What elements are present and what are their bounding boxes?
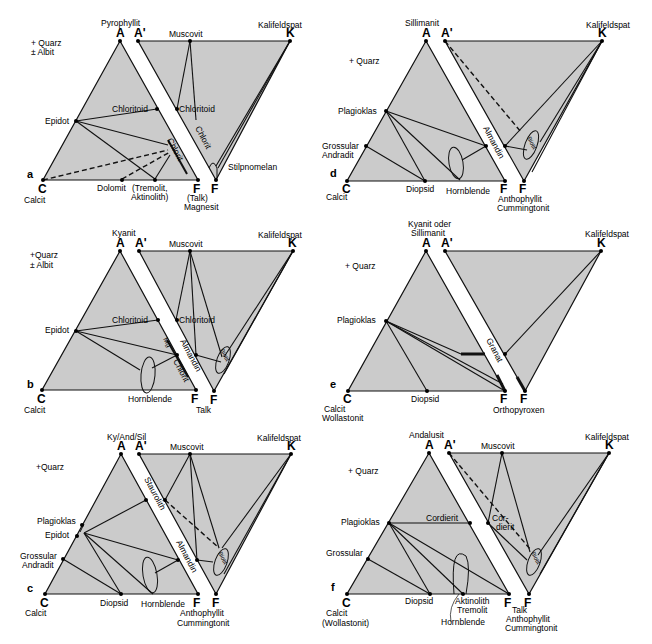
vertex-A: A: [422, 26, 431, 40]
assemblage-label: +Quarz: [30, 250, 58, 260]
assemblage-label: ± Albit: [30, 260, 54, 270]
vertex-mineral: Magnesit: [184, 202, 219, 212]
vertex-K: K: [288, 236, 297, 250]
phase-label: Plagioklas: [337, 315, 376, 325]
phase-label: Chloritoid: [112, 315, 148, 325]
panel-a: + Quarz ± Albit Pyrophyllit A A' Muscovi…: [24, 18, 303, 212]
phase-label: Andradit: [22, 560, 54, 570]
panel-e: + Quarz Kyanit oder Sillimanit A A' Kali…: [322, 219, 630, 423]
panel-c: +Quarz Ky/And/Sil A A' Muscovit Kalifeld…: [20, 432, 302, 628]
phase-label: Hornblende: [128, 394, 172, 404]
phase-label: Chloritoid: [179, 104, 215, 114]
phase-label: Diopsid: [411, 394, 440, 404]
phase-label: Plagioklas: [338, 106, 377, 116]
vertex-mineral: Wollastonit: [322, 413, 364, 423]
vertex-K: K: [598, 26, 607, 40]
vertex-K: K: [286, 26, 295, 40]
phase-label: Chloritoid: [179, 315, 215, 325]
phase-label: Stilpnomelan: [228, 162, 277, 172]
vertex-mineral: Kalifeldspat: [586, 20, 631, 30]
vertex-F: F: [191, 392, 198, 406]
phase-label: Diopsid: [100, 598, 129, 608]
panel-b: +Quarz ± Albit Kyanit A A' Muscovit Kali…: [24, 228, 303, 415]
assemblage-label: +Quarz: [36, 462, 64, 472]
vertex-A-prime: A': [441, 236, 453, 250]
vertex-F-prime: F: [211, 182, 218, 196]
vertex-mineral: Calcit: [326, 608, 348, 618]
vertex-F: F: [504, 596, 511, 610]
phase-label: Grossular: [326, 548, 363, 558]
phase-label: Plagioklas: [341, 517, 380, 527]
phase-label: Muscovit: [481, 441, 515, 451]
vertex-mineral: Kalifeldspat: [585, 229, 630, 239]
assemblage-label: + Quarz: [348, 466, 378, 476]
vertex-mineral: Cummingtonit: [177, 618, 230, 628]
vertex-K: K: [597, 236, 606, 250]
panel-f: + Quarz Andalusit A A' Muscovit Kalifeld…: [322, 430, 630, 633]
acf-akf-diagram-figure: + Quarz ± Albit Pyrophyllit A A' Muscovi…: [0, 0, 652, 644]
phase-label: Andradit: [322, 150, 354, 160]
vertex-A: A: [422, 236, 431, 250]
assemblage-label: + Quarz: [345, 261, 375, 271]
vertex-mineral: Talk: [196, 405, 212, 415]
vertex-mineral: Calcit: [326, 192, 348, 202]
phase-label: Diopsid: [405, 596, 434, 606]
vertex-mineral: Calcit: [24, 195, 46, 205]
vertex-K: K: [287, 439, 296, 453]
phase-label: Hornblende: [441, 617, 485, 627]
panel-letter: c: [27, 582, 33, 594]
assemblage-label: + Quarz: [349, 56, 379, 66]
vertex-mineral: Cummingtonit: [505, 623, 558, 633]
vertex-A: A: [425, 438, 434, 452]
panel-letter: a: [27, 168, 34, 180]
vertex-A: A: [117, 439, 126, 453]
vertex-mineral: Cummingtonit: [497, 203, 550, 213]
phase-label: Cordierit: [426, 513, 459, 523]
phase-label: Diopsid: [406, 184, 435, 194]
vertex-mineral: Calcit: [24, 405, 46, 415]
phase-label: Epidot: [45, 530, 70, 540]
phase-label: dierit: [496, 522, 515, 532]
phase-label: Muscovit: [169, 239, 203, 249]
vertex-F: F: [500, 392, 507, 406]
phase-label: Aktinolith): [131, 192, 168, 202]
vertex-A-prime: A': [134, 26, 146, 40]
phase-label: Hornblende: [446, 186, 490, 196]
phase-label: Dolomit: [97, 183, 126, 193]
panel-letter: f: [331, 581, 335, 593]
panel-letter: d: [330, 167, 337, 179]
panel-letter: b: [27, 378, 34, 390]
phase-label: Epidot: [45, 325, 70, 335]
phase-label: Hornblende: [141, 599, 185, 609]
vertex-F-prime: F: [520, 392, 527, 406]
vertex-mineral: Orthopyroxen: [493, 405, 545, 415]
vertex-A-prime: A': [441, 26, 453, 40]
vertex-A-prime: A': [444, 438, 456, 452]
vertex-C: C: [37, 392, 46, 406]
panel-d: + Quarz Sillimanit A A' Kalifeldspat K P…: [322, 18, 631, 213]
vertex-A: A: [116, 236, 125, 250]
phase-label: Chloritoid: [112, 104, 148, 114]
assemblage-a-2: ± Albit: [31, 47, 55, 57]
phase-label: Tremolit: [457, 605, 488, 615]
vertex-mineral: Calcit: [25, 608, 47, 618]
panel-letter: e: [330, 378, 336, 390]
vertex-A-prime: A': [135, 236, 147, 250]
phase-label: Epidot: [45, 116, 70, 126]
vertex-C: C: [38, 182, 47, 196]
phase-label: Plagioklas: [37, 516, 76, 526]
phase-label: Muscovit: [169, 29, 203, 39]
phase-label: Muscovit: [170, 442, 204, 452]
vertex-A: A: [116, 26, 125, 40]
vertex-A-prime: A': [135, 439, 147, 453]
vertex-mineral-a-K: Kalifeldspat: [258, 20, 303, 30]
vertex-K: K: [605, 438, 614, 452]
vertex-mineral: (Wollastonit): [322, 618, 369, 628]
vertex-mineral: Anthophyllit: [180, 608, 225, 618]
